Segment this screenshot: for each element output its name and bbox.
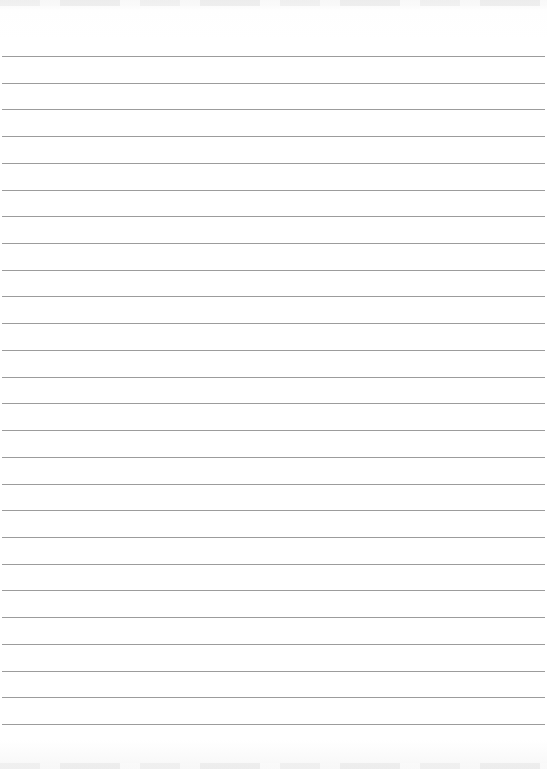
- ruled-line: [2, 617, 545, 618]
- ruled-line: [2, 403, 545, 404]
- ruled-line: [2, 109, 545, 110]
- ruled-line: [2, 323, 545, 324]
- ruled-line: [2, 190, 545, 191]
- ruled-line: [2, 484, 545, 485]
- ruled-line: [2, 216, 545, 217]
- ruled-line: [2, 296, 545, 297]
- ruled-line: [2, 671, 545, 672]
- ruled-line: [2, 590, 545, 591]
- ruled-line: [2, 510, 545, 511]
- scan-edge-top: [0, 0, 547, 6]
- ruled-paper-sheet: [0, 0, 547, 769]
- ruled-line: [2, 564, 545, 565]
- ruled-line: [2, 644, 545, 645]
- ruled-line: [2, 697, 545, 698]
- ruled-line: [2, 430, 545, 431]
- ruled-line: [2, 56, 545, 57]
- ruled-line: [2, 377, 545, 378]
- ruled-line: [2, 457, 545, 458]
- ruled-line: [2, 270, 545, 271]
- ruled-line: [2, 724, 545, 725]
- ruled-line: [2, 350, 545, 351]
- ruled-line: [2, 537, 545, 538]
- ruled-line: [2, 136, 545, 137]
- ruled-line: [2, 163, 545, 164]
- ruled-line: [2, 83, 545, 84]
- scan-edge-bottom: [0, 763, 547, 769]
- ruled-line: [2, 243, 545, 244]
